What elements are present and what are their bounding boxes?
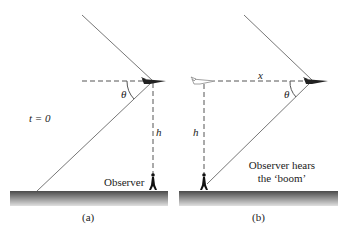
angle-label-b: θ — [284, 89, 289, 100]
observer-label-a: Observer — [104, 177, 144, 188]
jet-icon-a — [141, 77, 166, 84]
height-label-a: h — [156, 127, 162, 138]
observer-figure-icon-b — [200, 173, 208, 190]
shock-front-upper-a — [82, 15, 153, 81]
shock-front-lower-a — [37, 81, 153, 191]
observer-label-b-line1: Observer hears — [232, 160, 332, 171]
distance-label-b: x — [258, 70, 263, 81]
height-label-b: h — [193, 127, 199, 138]
ground-a — [10, 191, 168, 206]
jet-icon-b — [303, 77, 328, 84]
observer-figure-icon-a — [149, 173, 157, 190]
angle-arc-b — [290, 81, 296, 97]
caption-b: (b) — [252, 212, 265, 223]
caption-a: (a) — [82, 212, 94, 223]
ground-b — [179, 191, 338, 206]
angle-arc-a — [127, 81, 134, 99]
observer-label-b-line2: the ‘boom’ — [232, 173, 332, 184]
shock-front-upper-b — [244, 15, 312, 80]
angle-label-a: θ — [121, 89, 126, 100]
time-label-a: t = 0 — [29, 113, 50, 124]
ghost-jet-icon-b — [191, 77, 215, 84]
sonic-boom-diagram — [0, 0, 348, 234]
